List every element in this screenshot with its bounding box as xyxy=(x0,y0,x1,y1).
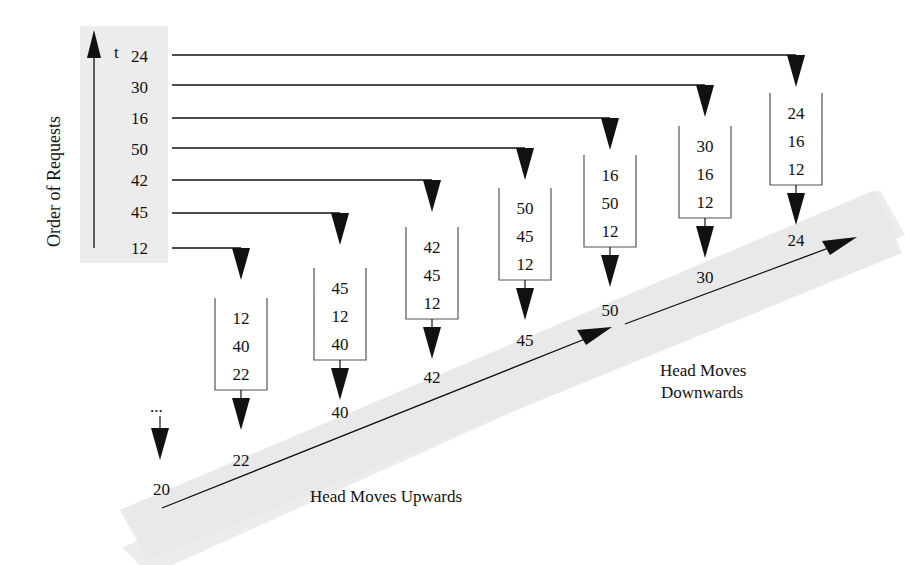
queue-item: 40 xyxy=(332,335,349,354)
queue-item: 12 xyxy=(602,222,619,241)
queue-item: 45 xyxy=(332,279,349,298)
queue-item: 16 xyxy=(697,165,714,184)
dispatch-arrow-icon xyxy=(232,398,250,430)
queue-item: 50 xyxy=(517,199,534,218)
queue-item: 40 xyxy=(233,337,250,356)
serviced-position: 30 xyxy=(697,268,714,287)
incoming-arrow-icon xyxy=(423,180,441,212)
incoming-arrow-icon xyxy=(232,248,250,280)
order-label: 42 xyxy=(131,171,148,190)
incoming-arrow-icon xyxy=(331,213,349,245)
incoming-arrow-icon xyxy=(601,118,619,150)
queue-item: 22 xyxy=(233,365,250,384)
queue-item: 30 xyxy=(697,137,714,156)
serviced-position: 40 xyxy=(332,403,349,422)
dispatch-arrow-icon xyxy=(331,368,349,400)
queue-item: 45 xyxy=(424,266,441,285)
serviced-position: 24 xyxy=(788,231,806,250)
order-axis-label: Order of Requests xyxy=(44,116,64,247)
order-label: 12 xyxy=(131,239,148,258)
serviced-position: 50 xyxy=(602,301,619,320)
queue-item: 24 xyxy=(788,104,806,123)
incoming-arrow-icon xyxy=(696,85,714,117)
dispatch-arrow-icon xyxy=(696,226,714,258)
queue-item: 16 xyxy=(602,166,619,185)
order-label: 30 xyxy=(131,78,148,97)
queue-item: 16 xyxy=(788,132,805,151)
head-down-label-line2: Downwards xyxy=(661,383,743,402)
order-axis-panel xyxy=(80,26,168,263)
incoming-arrow-icon xyxy=(516,148,534,180)
dispatch-arrow-icon xyxy=(516,288,534,320)
incoming-arrow-icon xyxy=(787,55,805,87)
time-axis-label: t xyxy=(114,43,119,62)
head-down-label-line1: Head Moves xyxy=(660,361,746,380)
order-label: 50 xyxy=(131,140,148,159)
serviced-position: 45 xyxy=(517,331,534,350)
queue-item: 12 xyxy=(424,294,441,313)
scheduling-diagram: t Order of Requests 24301650424512 12402… xyxy=(0,0,905,565)
serviced-position: 22 xyxy=(233,451,250,470)
queue-item: 42 xyxy=(424,238,441,257)
head-up-arrow xyxy=(162,331,605,508)
dispatch-arrow-icon xyxy=(601,255,619,287)
dispatch-arrow-icon xyxy=(423,327,441,359)
queue-item: 12 xyxy=(517,255,534,274)
initial-arrow-icon xyxy=(151,428,169,460)
order-label: 16 xyxy=(131,109,148,128)
queue-item: 12 xyxy=(788,160,805,179)
initial-position: 20 xyxy=(153,480,170,499)
order-label: 45 xyxy=(131,203,148,222)
queue-item: 45 xyxy=(517,227,534,246)
queue-item: 12 xyxy=(332,307,349,326)
head-up-label: Head Moves Upwards xyxy=(310,487,462,506)
dispatch-arrow-icon xyxy=(787,193,805,225)
queue-item: 50 xyxy=(602,194,619,213)
queue-item: 12 xyxy=(233,309,250,328)
order-label: 24 xyxy=(131,47,149,66)
initial-ellipsis: ... xyxy=(150,397,163,416)
serviced-position: 42 xyxy=(424,368,441,387)
queue-item: 12 xyxy=(697,193,714,212)
